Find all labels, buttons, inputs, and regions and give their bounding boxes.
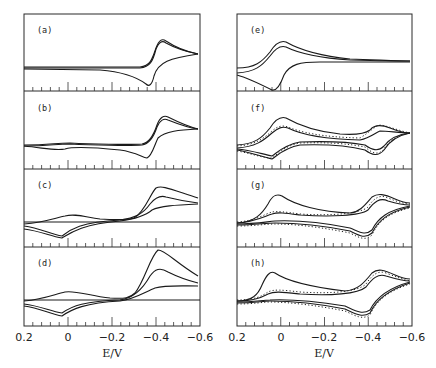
x-tick-label-neg0.6-right: −0.6	[399, 331, 426, 344]
left-column: (a) (b) (c) (d)	[15, 14, 213, 360]
panel-e-curves	[237, 41, 410, 90]
right-column: (e) (f) (g) (h)	[228, 14, 425, 360]
left-frame	[24, 14, 200, 326]
x-ticks-left	[33, 82, 191, 326]
cv-figure: (a) (b) (c) (d)	[0, 0, 436, 368]
panel-b-curves	[24, 116, 198, 158]
x-tick-label-neg0.6: −0.6	[187, 331, 214, 344]
panel-h-curves	[237, 270, 410, 317]
x-ticks-right	[246, 82, 404, 326]
x-tick-label-0.2: 0.2	[15, 331, 33, 344]
x-axis-label-left: E/V	[102, 347, 123, 360]
panel-label-b: (b)	[37, 103, 52, 113]
panel-label-e: (e)	[250, 25, 265, 35]
panel-label-a: (a)	[37, 25, 52, 35]
panel-label-d: (d)	[37, 258, 52, 268]
panel-a-curves	[24, 40, 198, 86]
x-tick-label-neg0.4: −0.4	[143, 331, 170, 344]
x-tick-label-0: 0	[65, 331, 72, 344]
x-tick-label-neg0.4-right: −0.4	[355, 331, 382, 344]
panel-f-curves	[237, 117, 410, 159]
panel-c-curves	[24, 187, 200, 238]
panel-label-h: (h)	[250, 258, 265, 268]
panel-label-f: (f)	[250, 103, 265, 113]
panel-label-g: (g)	[250, 180, 265, 190]
x-tick-label-neg0.2: −0.2	[99, 331, 126, 344]
x-tick-label-0.2-right: 0.2	[228, 331, 246, 344]
x-tick-label-neg0.2-right: −0.2	[311, 331, 338, 344]
panel-label-c: (c)	[37, 180, 52, 190]
panel-g-curves	[237, 195, 410, 239]
x-tick-label-0-right: 0	[278, 331, 285, 344]
x-axis-label-right: E/V	[314, 347, 335, 360]
